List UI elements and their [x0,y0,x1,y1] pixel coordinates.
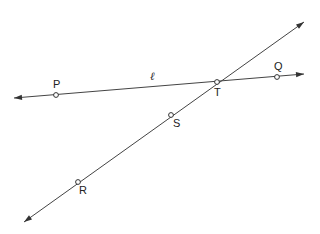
point-p [54,93,59,98]
point-label-r: R [79,184,87,196]
transversal [24,22,304,222]
point-label-q: Q [274,60,283,72]
line-l-arrow-end-icon [296,72,304,77]
points-layer [54,75,280,185]
transversal-arrow-end-icon [296,22,304,29]
transversal-arrow-start-icon [24,215,32,222]
point-label-s: S [173,117,180,129]
labels-layer: ℓPQTSR [53,60,283,196]
line-l-arrow-start-icon [14,95,22,100]
point-q [275,75,280,80]
point-t [215,80,220,85]
point-label-t: T [214,86,221,98]
point-label-p: P [53,78,60,90]
geometry-diagram: ℓPQTSR [0,0,320,234]
line-l-label: ℓ [150,70,155,83]
lines-layer [14,22,304,222]
